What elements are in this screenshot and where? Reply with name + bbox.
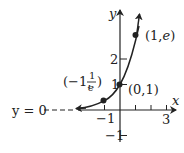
point-label-neg1-close: ) <box>97 74 102 89</box>
y-tick-2: 2 <box>110 52 118 67</box>
point-label-0: (0,1) <box>128 82 159 97</box>
x-axis-label: x <box>172 93 180 108</box>
point-label-1: (1,e) <box>145 28 175 43</box>
point-1 <box>133 32 139 38</box>
y-axis-label: y <box>108 6 117 21</box>
asymptote-label: y = 0 <box>11 103 47 118</box>
y-tick-neg1: −1 <box>105 128 124 143</box>
x-tick-3: 3 <box>162 112 170 127</box>
curve-arrow-left <box>76 108 86 109</box>
y-tick-1: 1 <box>111 77 119 92</box>
point-neg1 <box>101 98 107 104</box>
x-tick-neg1: −1 <box>96 111 115 126</box>
exponential-graph: y x 2 1 −1 −1 3 y = 0 (−1, 1 e ) (0,1) (… <box>0 0 184 153</box>
x-ticks <box>105 105 167 110</box>
point-label-neg1-den: e <box>88 82 94 93</box>
point-label-neg1-num: 1 <box>89 70 95 81</box>
